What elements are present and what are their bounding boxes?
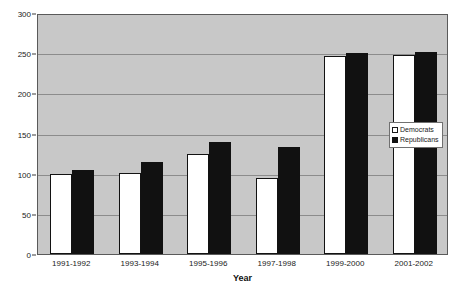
y-axis: 050100150200250300 [0,0,37,291]
bar-group [187,15,231,254]
legend-item-democrats: Democrats [392,125,439,135]
y-tick-mark-100 [32,174,36,175]
y-tick-label-100: 100 [18,170,31,179]
x-axis-title: Year [37,273,448,283]
x-tick-label-1993-1994: 1993-1994 [121,259,159,268]
y-tick-label-0: 0 [27,251,31,260]
bar-democrats-2001-2002 [393,55,415,254]
x-tick-label-2001-2002: 2001-2002 [395,259,433,268]
legend-item-republicans: Republicans [392,135,439,145]
bar-democrats-1993-1994 [119,173,141,254]
y-tick-mark-300 [32,14,36,15]
bar-democrats-1995-1996 [187,154,209,254]
x-axis: 1991-19921993-19941995-19961997-19981999… [37,259,448,273]
bar-democrats-1991-1992 [50,174,72,254]
legend-swatch-republicans-icon [392,137,398,143]
bar-democrats-1999-2000 [324,56,346,254]
x-tick-label-1999-2000: 1999-2000 [326,259,364,268]
legend-label-republicans: Republicans [400,136,439,144]
bar-democrats-1997-1998 [256,178,278,254]
y-tick-label-150: 150 [18,130,31,139]
bar-republicans-1993-1994 [141,162,163,254]
x-tick-label-1997-1998: 1997-1998 [258,259,296,268]
bar-republicans-2001-2002 [415,52,437,254]
bar-republicans-1995-1996 [209,142,231,254]
bar-group [324,15,368,254]
bar-group [119,15,163,254]
y-tick-mark-250 [32,54,36,55]
x-tick-label-1991-1992: 1991-1992 [52,259,90,268]
bar-group [256,15,300,254]
y-tick-label-300: 300 [18,10,31,19]
bar-chart: 050100150200250300 1991-19921993-1994199… [0,0,454,291]
chart-legend: Democrats Republicans [389,122,443,148]
y-tick-mark-50 [32,214,36,215]
x-tick-label-1995-1996: 1995-1996 [189,259,227,268]
y-tick-mark-150 [32,134,36,135]
bar-republicans-1999-2000 [346,53,368,254]
bar-group [50,15,94,254]
y-tick-label-250: 250 [18,50,31,59]
bar-republicans-1997-1998 [278,147,300,254]
y-tick-label-200: 200 [18,90,31,99]
bar-republicans-1991-1992 [72,170,94,254]
y-tick-mark-200 [32,94,36,95]
bars-layer [38,15,447,254]
plot-area [37,14,448,255]
y-tick-label-50: 50 [22,210,31,219]
legend-swatch-democrats-icon [392,127,398,133]
y-tick-mark-0 [32,255,36,256]
legend-label-democrats: Democrats [400,126,434,134]
